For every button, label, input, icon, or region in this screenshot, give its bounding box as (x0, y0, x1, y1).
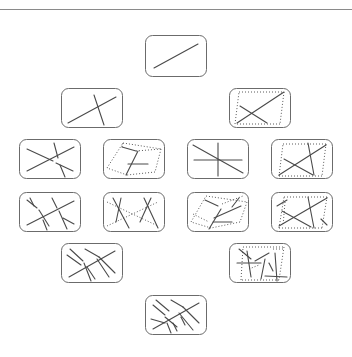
panel-r4c2 (103, 192, 165, 232)
line-arrangement-lattice (0, 0, 352, 357)
panel-frame (272, 140, 333, 179)
panel-r5c2 (229, 243, 291, 283)
panel-frame (20, 193, 81, 232)
panel-r3c2 (103, 139, 165, 179)
panel-r4c3 (187, 192, 249, 232)
panel-r3c3 (187, 139, 249, 179)
panel-r2c2 (229, 88, 291, 128)
panel-r3c4 (271, 139, 333, 179)
panel-r3c1 (19, 139, 81, 179)
panel-r5c1 (61, 243, 123, 283)
panel-r1c1 (145, 35, 207, 77)
panel-r6c1 (145, 295, 207, 335)
panel-r2c1 (61, 88, 123, 128)
panel-r4c1 (19, 192, 81, 232)
panel-r4c4 (271, 192, 333, 232)
